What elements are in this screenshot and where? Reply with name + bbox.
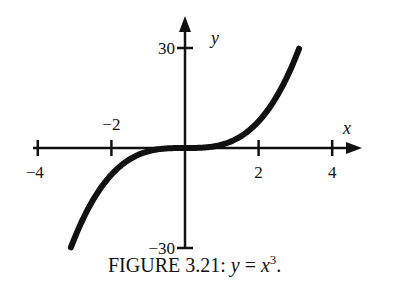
x-tick-label: −4 bbox=[26, 163, 45, 182]
caption-eq-base: x bbox=[261, 254, 270, 276]
x-axis-label: x bbox=[342, 118, 351, 138]
caption-eq-equals: = bbox=[240, 254, 261, 276]
caption-prefix: FIGURE 3.21: bbox=[108, 254, 231, 276]
y-axis-arrow-icon bbox=[179, 16, 191, 32]
axes bbox=[33, 16, 362, 248]
axis-labels: −4−22430−30xy bbox=[26, 28, 351, 258]
caption-eq-lhs: y bbox=[231, 254, 240, 276]
y-tick-label: 30 bbox=[158, 39, 175, 58]
x-tick-label: −2 bbox=[102, 115, 120, 134]
y-axis-label: y bbox=[209, 28, 219, 48]
caption-suffix: . bbox=[276, 254, 281, 276]
x-tick-label: 4 bbox=[328, 163, 337, 182]
x-axis-arrow-icon bbox=[346, 142, 362, 154]
x-tick-label: 2 bbox=[254, 163, 263, 182]
